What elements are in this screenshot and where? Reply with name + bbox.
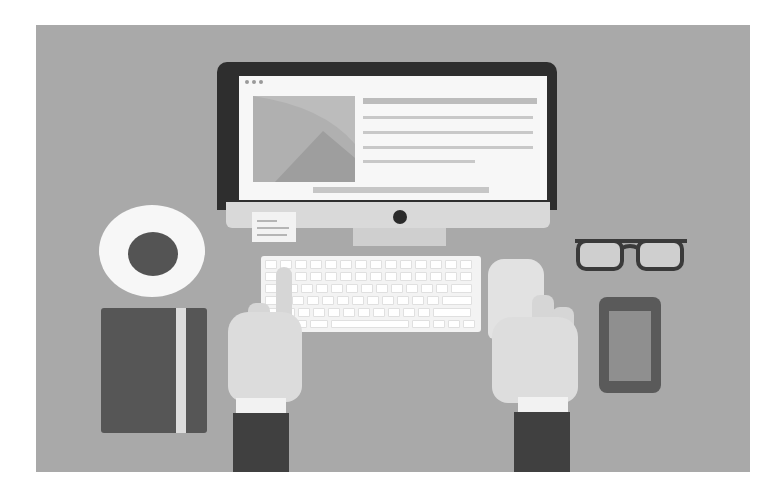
window-close-dot-icon xyxy=(245,80,249,84)
window-minimize-dot-icon xyxy=(252,80,256,84)
right-sleeve xyxy=(514,412,570,472)
screen-text-line xyxy=(363,131,533,134)
right-hand xyxy=(488,255,588,472)
coffee-cup-icon xyxy=(128,232,178,276)
smartphone-screen xyxy=(609,311,651,381)
note-line xyxy=(257,220,277,222)
notebook-strap xyxy=(176,308,186,433)
power-button-icon xyxy=(393,210,407,224)
eyeglasses-icon xyxy=(572,238,690,274)
sticky-note xyxy=(252,212,296,242)
monitor-screen xyxy=(239,76,547,200)
left-sleeve xyxy=(233,413,289,472)
right-shirt-cuff xyxy=(518,397,568,412)
left-palm xyxy=(228,312,302,402)
note-line xyxy=(257,227,289,229)
left-hand xyxy=(228,257,308,472)
right-palm xyxy=(492,317,578,403)
window-maximize-dot-icon xyxy=(259,80,263,84)
screen-text-line xyxy=(363,116,533,119)
screen-text-line xyxy=(363,160,475,163)
left-shirt-cuff xyxy=(236,398,286,413)
notebook xyxy=(101,308,207,433)
screen-chart-image xyxy=(253,96,355,182)
screen-heading-line xyxy=(363,98,537,104)
note-line xyxy=(257,234,287,236)
screen-text-line xyxy=(363,146,533,149)
pie-wedge-icon xyxy=(253,96,355,182)
screen-bottom-bar xyxy=(313,187,489,193)
monitor-stand xyxy=(353,228,446,246)
